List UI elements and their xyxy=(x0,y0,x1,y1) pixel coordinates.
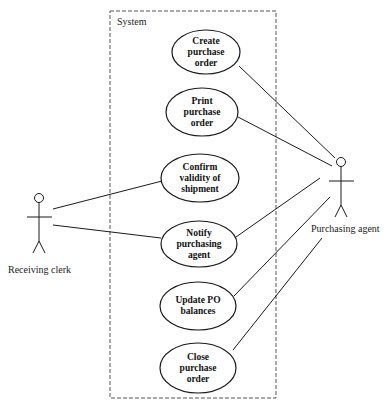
actor-right-leg-icon xyxy=(39,241,45,253)
actor-head-icon xyxy=(337,158,346,167)
use-case-label-notify-agent: Notify purchasing agent xyxy=(161,221,237,267)
use-case-label-confirm-shipment: Confirm validity of shipment xyxy=(161,154,239,202)
actor-receiving-clerk[interactable] xyxy=(27,194,52,254)
actor-label-receiving-clerk: Receiving clerk xyxy=(8,264,71,275)
use-case-label-update-po-balances: Update PO balances xyxy=(160,282,236,330)
actor-label-purchasing-agent: Purchasing agent xyxy=(311,223,380,234)
actor-head-icon xyxy=(35,194,44,203)
actor-left-leg-icon xyxy=(33,241,39,253)
actor-purchasing-agent[interactable] xyxy=(329,158,354,218)
system-boundary-label: System xyxy=(117,16,146,27)
association-line-notify-agent-to-purchasing-agent xyxy=(236,178,320,237)
actor-right-leg-icon xyxy=(341,205,347,217)
use-cases-layer xyxy=(160,30,240,393)
association-line-create-po-to-purchasing-agent xyxy=(239,66,335,158)
use-case-label-print-po: Print purchase order xyxy=(166,88,238,136)
association-line-receiving-clerk-to-confirm-shipment xyxy=(53,181,162,209)
actor-left-leg-icon xyxy=(335,205,341,217)
association-line-receiving-clerk-to-notify-agent xyxy=(53,225,161,238)
use-case-label-create-po: Create purchase order xyxy=(172,30,240,74)
use-case-label-close-po: Close purchase order xyxy=(160,343,236,393)
association-line-close-po-to-purchasing-agent xyxy=(233,238,322,350)
